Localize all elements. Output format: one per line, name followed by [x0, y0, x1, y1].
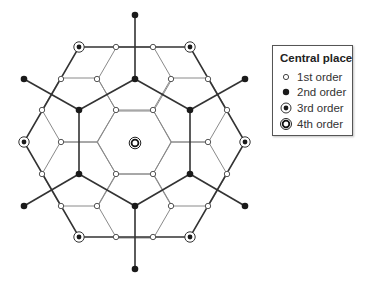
filled-circle-icon	[279, 85, 293, 99]
legend-label: 2nd order	[297, 86, 346, 98]
central-place-diagram	[0, 0, 371, 286]
legend-label: 3rd order	[297, 102, 344, 114]
ringed-dot-icon	[279, 101, 293, 115]
legend-label: 1st order	[297, 71, 342, 83]
double-ring-icon	[279, 117, 293, 131]
legend-item-3rd-order: 3rd order	[279, 101, 344, 115]
legend-title: Central place	[280, 52, 352, 64]
legend-label: 4th order	[297, 118, 343, 130]
legend-item-1st-order: 1st order	[279, 70, 342, 84]
legend-item-2nd-order: 2nd order	[279, 85, 346, 99]
legend: Central place 1st order 2nd order 3rd or…	[272, 45, 353, 136]
open-circle-icon	[279, 70, 293, 84]
legend-item-4th-order: 4th order	[279, 117, 343, 131]
